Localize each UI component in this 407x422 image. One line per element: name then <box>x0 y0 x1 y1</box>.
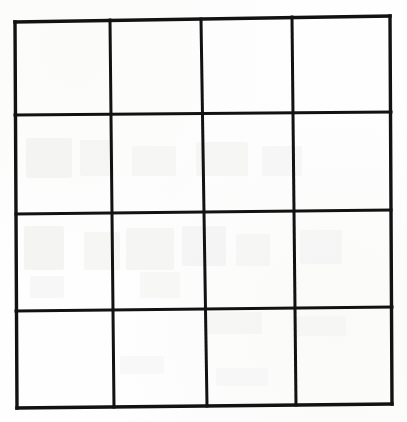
grid-cell[interactable] <box>206 311 292 404</box>
grid-cell[interactable] <box>296 311 389 404</box>
grid-cell[interactable] <box>206 116 292 211</box>
grid-cell[interactable] <box>296 21 389 112</box>
grid-cell[interactable] <box>114 214 202 307</box>
grid-cell[interactable] <box>18 311 110 404</box>
grid-cells <box>0 0 407 422</box>
grid-cell[interactable] <box>114 116 202 211</box>
grid-cell[interactable] <box>206 214 292 307</box>
grid-cell[interactable] <box>296 116 389 211</box>
grid-cell[interactable] <box>114 311 202 404</box>
grid-cell[interactable] <box>114 21 202 112</box>
grid-cell[interactable] <box>18 21 110 112</box>
grid-cell[interactable] <box>296 214 389 307</box>
grid-cell[interactable] <box>18 116 110 211</box>
scanned-page <box>0 0 407 422</box>
grid-cell[interactable] <box>206 21 292 112</box>
grid-cell[interactable] <box>18 214 110 307</box>
